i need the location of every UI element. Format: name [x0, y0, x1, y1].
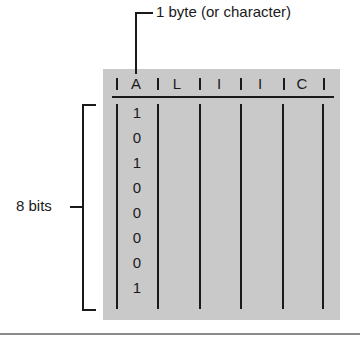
- column-line: [116, 104, 118, 309]
- header-separator: [199, 78, 201, 90]
- char-cell: A: [126, 76, 146, 92]
- char-cell: I: [250, 76, 270, 92]
- column-line: [240, 104, 242, 309]
- bottom-rule: [0, 333, 360, 335]
- bit-cell: 0: [127, 205, 147, 221]
- bracket-bottom: [82, 309, 96, 311]
- header-separator: [240, 78, 242, 90]
- byte-leader-vertical: [135, 12, 137, 74]
- header-separator: [323, 78, 325, 90]
- char-cell: L: [167, 76, 187, 92]
- bits-label: 8 bits: [16, 198, 52, 214]
- char-cell: I: [209, 76, 229, 92]
- bit-cell: 1: [127, 155, 147, 171]
- bit-cell: 0: [127, 180, 147, 196]
- bit-cell: 0: [127, 130, 147, 146]
- column-line: [199, 104, 201, 309]
- header-separator: [157, 78, 159, 90]
- byte-label: 1 byte (or character): [156, 4, 291, 20]
- bracket-top: [82, 104, 96, 106]
- header-underline: [112, 96, 334, 98]
- bracket-pointer: [70, 206, 82, 208]
- byte-leader-horizontal: [135, 12, 153, 14]
- bit-cell: 0: [127, 230, 147, 246]
- bit-cell: 1: [127, 280, 147, 296]
- bit-cell: 1: [127, 105, 147, 121]
- bracket-vertical: [82, 104, 84, 310]
- header-separator: [116, 78, 118, 90]
- column-line: [322, 104, 324, 309]
- column-line: [157, 104, 159, 309]
- char-cell: C: [292, 76, 312, 92]
- bit-cell: 0: [127, 255, 147, 271]
- header-separator: [283, 78, 285, 90]
- column-line: [282, 104, 284, 309]
